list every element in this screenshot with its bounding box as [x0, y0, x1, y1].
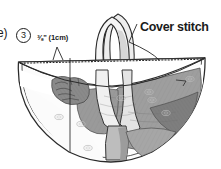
- illustration-canvas: e) 3 ⅜" (1cm) Cover stitch: [0, 0, 221, 169]
- bag-body-group: [18, 58, 205, 162]
- step-note-label: e): [0, 27, 7, 39]
- seam-allowance-leader: [53, 47, 63, 60]
- step-number-badge: 3: [16, 28, 31, 43]
- cover-stitch-label: Cover stitch: [140, 21, 209, 34]
- seam-allowance-label: ⅜" (1cm): [37, 34, 68, 42]
